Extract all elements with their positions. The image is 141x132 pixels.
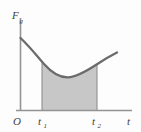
x-tick-label-t2: t (92, 115, 96, 127)
x-tick-label-t1-subscript: 1 (44, 122, 48, 130)
x-tick-label-t2-subscript: 2 (98, 122, 102, 130)
y-axis-label-subscript: g (20, 17, 24, 25)
x-axis-label: t (127, 115, 131, 127)
x-tick-label-t1: t (38, 115, 42, 127)
origin-label: O (13, 115, 21, 127)
y-axis-label: F (11, 9, 19, 21)
force-time-figure: F g O t 1 t 2 t (0, 0, 141, 132)
force-curve (21, 38, 118, 77)
force-time-chart-svg: F g O t 1 t 2 t (0, 0, 141, 132)
